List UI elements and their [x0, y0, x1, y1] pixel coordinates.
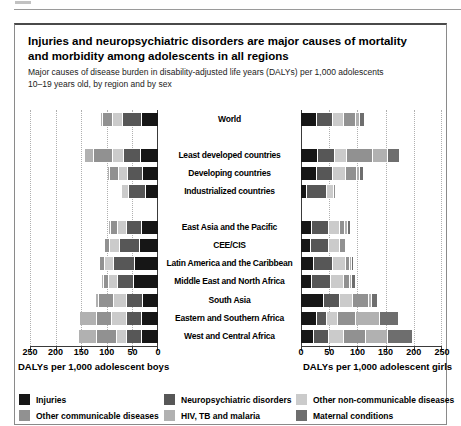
bar-segment-hiv_tb_malaria — [79, 330, 96, 343]
bar-segment-hiv_tb_malaria — [109, 221, 110, 234]
region-label: World — [158, 113, 301, 126]
bar-segment-other_communicable — [346, 257, 350, 270]
boys-chart-plot — [30, 110, 158, 347]
bar-segment-neuropsychiatric — [120, 239, 139, 252]
page-top-mark — [15, 1, 31, 4]
bar-segment-other_ncd — [340, 294, 353, 307]
bar-segment-hiv_tb_malaria — [345, 221, 347, 234]
girls-axis-caption: DALYs per 1,000 adolescent girls — [303, 361, 452, 372]
bar-segment-neuropsychiatric — [128, 167, 142, 180]
figure-title-line1: Injuries and neuropsychiatric disorders … — [28, 34, 407, 49]
neuropsychiatric-swatch — [164, 394, 175, 405]
legend-label: Other non-communicable diseases — [313, 395, 454, 405]
region-label: West and Central Africa — [158, 330, 301, 343]
bar-segment-neuropsychiatric — [314, 257, 332, 270]
stacked-bar-girls — [301, 330, 412, 343]
stacked-bar-boys — [79, 330, 158, 343]
legend-item-other_ncd: Other non-communicable diseases — [296, 394, 454, 405]
stacked-bar-boys — [108, 167, 158, 180]
figure-subtitle: Major causes of disease burden in disabi… — [28, 67, 384, 90]
stacked-bar-boys — [101, 113, 158, 126]
bar-segment-maternal — [348, 221, 350, 234]
stacked-bar-girls — [301, 312, 398, 325]
bar-segment-other_communicable — [111, 221, 117, 234]
bar-segment-injuries — [142, 330, 158, 343]
maternal-swatch — [296, 410, 307, 421]
bar-segment-other_ncd — [113, 113, 122, 126]
bar-segment-other_ncd — [110, 239, 118, 252]
region-label: East Asia and the Pacific — [158, 221, 301, 234]
bar-segment-neuropsychiatric — [129, 185, 145, 198]
stacked-bar-girls — [301, 185, 335, 198]
stacked-bar-girls — [301, 113, 364, 126]
bar-segment-other_communicable — [344, 330, 366, 343]
legend-label: HIV, TB and malaria — [181, 411, 260, 421]
bar-segment-other_ncd — [112, 312, 126, 325]
gridline-250 — [441, 110, 442, 346]
bar-segment-injuries — [301, 312, 316, 325]
bar-segment-hiv_tb_malaria — [366, 330, 386, 343]
axis-tick-label: 50 — [127, 347, 137, 357]
bar-segment-other_communicable — [94, 149, 112, 162]
region-label: South Asia — [158, 294, 301, 307]
bar-segment-maternal — [388, 330, 412, 343]
bar-segment-maternal — [352, 275, 354, 288]
bar-segment-other_ncd — [118, 221, 126, 234]
axis-tick-label: 0 — [298, 347, 303, 357]
axis-tick-label: 200 — [48, 347, 63, 357]
figure-title-line2: and morbidity among adolescents in all r… — [28, 49, 407, 64]
bar-segment-maternal — [360, 113, 364, 126]
bar-segment-other_communicable — [334, 185, 335, 198]
bar-segment-neuropsychiatric — [127, 312, 141, 325]
bar-segment-injuries — [134, 275, 158, 288]
bar-segment-other_ncd — [331, 275, 343, 288]
bar-segment-injuries — [142, 221, 158, 234]
bar-segment-hiv_tb_malaria — [102, 275, 103, 288]
bar-segment-neuropsychiatric — [118, 275, 133, 288]
bar-segment-other_communicable — [110, 167, 118, 180]
gridline-200 — [414, 110, 415, 346]
region-label: Eastern and Southern Africa — [158, 312, 301, 325]
bar-segment-maternal — [380, 312, 397, 325]
bar-segment-other_communicable — [340, 239, 345, 252]
bar-segment-hiv_tb_malaria — [356, 312, 380, 325]
axis-tick-label: 0 — [155, 347, 160, 357]
region-labels-column: WorldLeast developed countriesDeveloping… — [158, 110, 301, 347]
gridline-100 — [107, 110, 108, 346]
bar-segment-neuropsychiatric — [124, 149, 140, 162]
bar-segment-neuropsychiatric — [317, 113, 332, 126]
region-label: Middle East and North Africa — [158, 275, 301, 288]
bar-segment-other_ncd — [117, 330, 126, 343]
bar-segment-other_ncd — [109, 275, 117, 288]
bar-segment-injuries — [141, 149, 158, 162]
gridline-150 — [386, 110, 387, 346]
bar-segment-hiv_tb_malaria — [101, 113, 102, 126]
gridline-200 — [56, 110, 57, 346]
bar-segment-other_ncd — [119, 167, 127, 180]
bar-segment-hiv_tb_malaria — [356, 113, 359, 126]
bar-segment-other_communicable — [338, 312, 354, 325]
stacked-bar-girls — [301, 275, 355, 288]
bar-segment-hiv_tb_malaria — [80, 312, 96, 325]
bar-segment-injuries — [142, 113, 158, 126]
bar-segment-neuropsychiatric — [123, 113, 141, 126]
bar-segment-maternal — [388, 149, 399, 162]
bar-segment-injuries — [301, 239, 310, 252]
bar-segment-neuropsychiatric — [317, 312, 326, 325]
legend-label: Neuropsychiatric disorders — [181, 395, 292, 405]
stacked-bar-girls — [301, 167, 363, 180]
bar-segment-injuries — [301, 221, 311, 234]
bar-segment-other_communicable — [105, 239, 109, 252]
region-label: Least developed countries — [158, 149, 301, 162]
girls-axis-tick-labels: 050100150200250 — [301, 347, 442, 359]
bar-segment-injuries — [143, 294, 158, 307]
bar-segment-other_communicable — [346, 167, 356, 180]
boys-axis-caption: DALYs per 1,000 adolescent boys — [18, 361, 169, 372]
gridline-100 — [357, 110, 358, 346]
bar-segment-other_communicable — [344, 113, 355, 126]
stacked-bar-boys — [100, 257, 158, 270]
bar-segment-hiv_tb_malaria — [350, 275, 351, 288]
bar-segment-other_communicable — [99, 294, 113, 307]
bar-segment-other_communicable — [100, 257, 105, 270]
bar-segment-injuries — [143, 167, 158, 180]
